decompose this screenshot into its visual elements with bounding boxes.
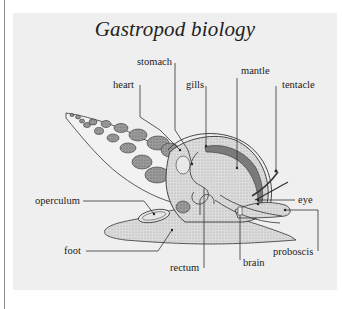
label-eye: eye bbox=[298, 194, 313, 206]
label-rectum: rectum bbox=[170, 262, 199, 274]
label-brain: brain bbox=[243, 257, 265, 269]
label-operculum: operculum bbox=[35, 195, 80, 207]
label-mantle: mantle bbox=[241, 65, 270, 77]
label-heart: heart bbox=[113, 79, 134, 91]
label-tentacle: tentacle bbox=[282, 79, 315, 91]
label-gills: gills bbox=[186, 79, 204, 91]
label-stomach: stomach bbox=[137, 56, 172, 68]
label-foot: foot bbox=[64, 245, 81, 257]
label-proboscis: proboscis bbox=[273, 246, 313, 258]
